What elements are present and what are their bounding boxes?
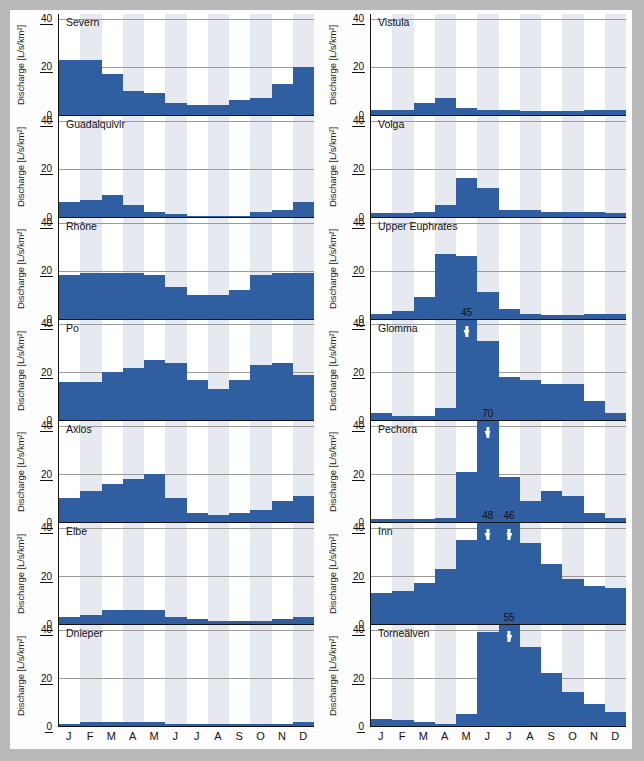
panel-axios: Discharge [L/s/km²]02040Axios — [12, 421, 314, 523]
panel-column-right: Discharge [L/s/km²]02040VistulaDischarge… — [324, 14, 626, 747]
y-tick-20: 20 — [352, 571, 369, 583]
x-tick-label: A — [434, 727, 455, 747]
x-tick-label: M — [143, 727, 164, 747]
bar — [392, 519, 413, 523]
y-tick-label: 0 — [45, 721, 53, 733]
bar — [102, 484, 123, 522]
bar — [477, 632, 498, 726]
bar — [584, 586, 605, 624]
bar — [123, 273, 144, 319]
y-tick-label: 20 — [352, 571, 365, 583]
y-axis-label-text: Discharge [L/s/km²] — [14, 127, 25, 207]
bar — [293, 496, 314, 522]
panel-torne-lven: Discharge [L/s/km²]02040Torneälven55 — [324, 625, 626, 727]
panel-column-left: Discharge [L/s/km²]02040SevernDischarge … — [12, 14, 314, 747]
bar — [165, 363, 186, 421]
y-tick-group: 02040 — [339, 320, 370, 422]
bar — [272, 84, 293, 115]
x-axis: JFMAMJJASOND — [12, 727, 314, 747]
figure-canvas: Discharge [L/s/km²]02040SevernDischarge … — [10, 10, 632, 749]
bar — [144, 722, 165, 726]
bar — [187, 380, 208, 421]
bar — [144, 212, 165, 217]
bar — [165, 617, 186, 624]
bar — [456, 714, 477, 726]
x-tick-label: A — [519, 727, 540, 747]
panel-title: Axios — [66, 423, 92, 435]
y-tick-20: 20 — [40, 265, 57, 277]
x-tick-label: A — [122, 727, 143, 747]
bar — [435, 408, 456, 420]
bar — [80, 273, 101, 319]
y-axis-label: Discharge [L/s/km²] — [324, 320, 339, 422]
bar — [165, 724, 186, 726]
x-tick-label: J — [498, 727, 519, 747]
bar — [414, 583, 435, 624]
y-axis: Discharge [L/s/km²]02040 — [324, 625, 370, 727]
bar — [414, 416, 435, 421]
y-tick-label: 40 — [352, 522, 365, 534]
bar — [477, 110, 498, 115]
y-axis-label-text: Discharge [L/s/km²] — [326, 331, 337, 411]
y-tick-group: 02040 — [27, 320, 58, 422]
bar — [59, 498, 80, 522]
bar — [499, 309, 520, 319]
plot-area: Inn4846 — [370, 523, 626, 625]
bar — [208, 295, 229, 319]
bar — [392, 213, 413, 217]
x-tick-label: O — [562, 727, 583, 747]
bar-series — [371, 320, 626, 421]
bar — [605, 213, 626, 217]
bar — [144, 275, 165, 318]
y-tick-label: 20 — [352, 163, 365, 175]
plot-area: Upper Euphrates — [370, 218, 626, 320]
bar — [499, 477, 520, 523]
bar-series — [59, 218, 314, 319]
panel-guadalquivir: Discharge [L/s/km²]02040Guadalquivir — [12, 116, 314, 218]
bar — [456, 320, 477, 421]
bar — [272, 363, 293, 421]
bar-series — [371, 14, 626, 115]
bar — [272, 619, 293, 624]
x-axis: JFMAMJJASOND — [324, 727, 626, 747]
bar — [477, 421, 498, 522]
bar — [229, 724, 250, 726]
y-axis-label-text: Discharge [L/s/km²] — [326, 534, 337, 614]
y-tick-20: 20 — [40, 367, 57, 379]
bar — [144, 610, 165, 624]
bar — [477, 292, 498, 318]
y-tick-40: 40 — [40, 318, 57, 330]
y-tick-40: 40 — [40, 624, 57, 636]
bar — [456, 178, 477, 216]
y-tick-40: 40 — [40, 420, 57, 432]
bar — [541, 315, 562, 319]
x-tick-label: O — [250, 727, 271, 747]
bar — [123, 610, 144, 624]
panel-title: Inn — [378, 525, 393, 537]
y-tick-label: 20 — [40, 571, 53, 583]
y-axis-label-text: Discharge [L/s/km²] — [326, 636, 337, 716]
panel-dnieper: Discharge [L/s/km²]02040Dnieper — [12, 625, 314, 727]
y-axis: Discharge [L/s/km²]02040 — [12, 14, 58, 116]
bar-series — [371, 421, 626, 522]
y-tick-group: 02040 — [339, 421, 370, 523]
bar — [102, 74, 123, 115]
y-tick-group: 02040 — [27, 523, 58, 625]
bar — [208, 724, 229, 726]
bar — [414, 103, 435, 115]
y-tick-label: 40 — [40, 115, 53, 127]
y-tick-label: 20 — [352, 367, 365, 379]
bar — [605, 110, 626, 115]
y-axis: Discharge [L/s/km²]02040 — [324, 14, 370, 116]
bar — [520, 501, 541, 523]
y-tick-40: 40 — [352, 420, 369, 432]
y-tick-20: 20 — [40, 571, 57, 583]
y-axis-label-text: Discharge [L/s/km²] — [326, 229, 337, 309]
bar — [80, 382, 101, 420]
panel-pechora: Discharge [L/s/km²]02040Pechora70 — [324, 421, 626, 523]
bar — [250, 275, 271, 318]
bar — [229, 621, 250, 625]
bar — [144, 474, 165, 522]
bar — [208, 621, 229, 625]
plot-area: Severn — [58, 14, 314, 116]
